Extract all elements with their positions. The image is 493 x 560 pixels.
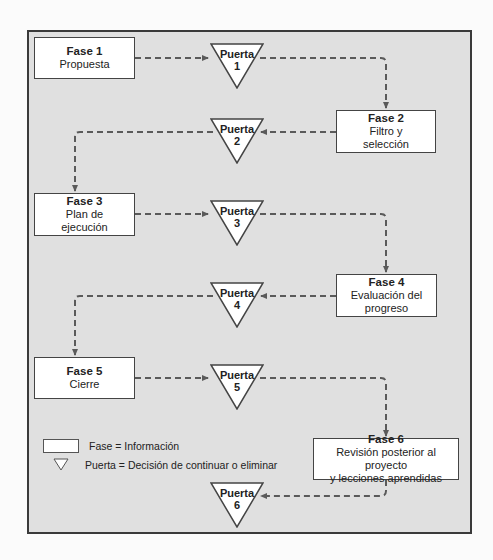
phase-3-box: Fase 3 Plan de ejecución [34, 193, 135, 236]
gate-1-number: 1 [210, 60, 264, 72]
gate-5: Puerta5 [210, 364, 264, 410]
gate-1-word: Puerta [210, 48, 264, 60]
phase-5-box: Fase 5 Cierre [34, 357, 135, 399]
phase-6-box: Fase 6 Revisión posterior al proyecto y … [313, 438, 459, 480]
gate-5-word: Puerta [210, 369, 264, 381]
legend-gate: Puerta = Decisión de continuar o elimina… [53, 458, 277, 471]
gate-2-word: Puerta [210, 123, 264, 135]
phase-1-title: Fase 1 [67, 45, 103, 58]
gate-3-word: Puerta [210, 205, 264, 217]
gate-3-number: 3 [210, 217, 264, 229]
phase-2-label-line1: Filtro y [370, 125, 403, 138]
phase-4-label-line1: Evaluación del [351, 289, 423, 302]
gate-2-number: 2 [210, 135, 264, 147]
phase-1-box: Fase 1 Propuesta [34, 37, 135, 79]
phase-1-label: Propuesta [59, 58, 109, 71]
phase-2-label-line2: selección [363, 138, 409, 151]
phase-3-label-line2: ejecución [61, 221, 107, 234]
phase-4-box: Fase 4 Evaluación del progreso [336, 274, 437, 317]
phase-2-box: Fase 2 Filtro y selección [336, 110, 436, 153]
gate-4-number: 4 [210, 299, 264, 311]
gate-2: Puerta2 [210, 118, 264, 164]
gate-3: Puerta3 [210, 200, 264, 246]
legend-gate-text: Puerta = Decisión de continuar o elimina… [85, 459, 277, 471]
gate-6: Puerta6 [210, 482, 264, 528]
gate-4-word: Puerta [210, 287, 264, 299]
phase-5-label: Cierre [70, 378, 100, 391]
phase-6-label-line2: y lecciones aprendidas [330, 472, 442, 485]
phase-5-title: Fase 5 [67, 365, 103, 378]
phase-3-label-line1: Plan de [66, 208, 103, 221]
gate-6-word: Puerta [210, 487, 264, 499]
phase-rectangle-icon [43, 439, 79, 453]
gate-triangle-icon [53, 458, 69, 471]
phase-6-title: Fase 6 [368, 433, 404, 446]
phase-4-label-line2: progreso [365, 302, 408, 315]
phase-2-title: Fase 2 [368, 112, 404, 125]
gate-5-number: 5 [210, 381, 264, 393]
gate-4: Puerta4 [210, 282, 264, 328]
phase-4-title: Fase 4 [369, 276, 405, 289]
legend-phase: Fase = Información [43, 439, 179, 453]
gate-6-number: 6 [210, 499, 264, 511]
phase-6-label-line1: Revisión posterior al proyecto [314, 446, 458, 472]
gate-1: Puerta1 [210, 43, 264, 89]
legend-phase-text: Fase = Información [89, 440, 179, 452]
phase-3-title: Fase 3 [67, 195, 103, 208]
